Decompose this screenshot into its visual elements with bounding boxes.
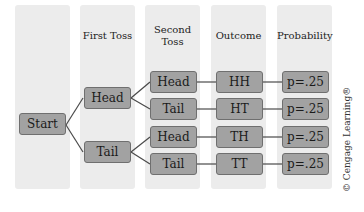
- copyright-credit: © Cengage Learning®: [342, 87, 352, 192]
- node-start: Start: [19, 113, 66, 135]
- node-outcome-th: TH: [216, 126, 263, 148]
- node-second-head-1: Head: [150, 71, 197, 93]
- node-first-tail: Tail: [84, 141, 131, 163]
- node-probability-1: p=.25: [282, 71, 329, 93]
- node-probability-4: p=.25: [282, 153, 329, 175]
- node-outcome-hh: HH: [216, 71, 263, 93]
- node-probability-2: p=.25: [282, 98, 329, 120]
- node-first-head: Head: [84, 87, 131, 109]
- node-outcome-tt: TT: [216, 153, 263, 175]
- node-second-head-2: Head: [150, 126, 197, 148]
- node-second-tail-1: Tail: [150, 98, 197, 120]
- node-outcome-ht: HT: [216, 98, 263, 120]
- node-second-tail-2: Tail: [150, 153, 197, 175]
- node-probability-3: p=.25: [282, 126, 329, 148]
